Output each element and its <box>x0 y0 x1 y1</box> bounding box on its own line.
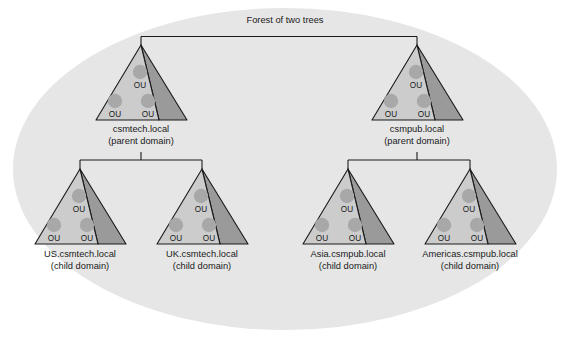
ou-circle[interactable] <box>80 218 94 232</box>
domain-name-label: US.csmtech.local <box>44 249 116 259</box>
ou-circle[interactable] <box>194 189 208 203</box>
ou-circle-label: OU <box>170 234 182 243</box>
domain-role-label: (parent domain) <box>108 136 174 146</box>
domain-role-label: (child domain) <box>319 261 377 271</box>
ou-circle-label: OU <box>142 110 154 119</box>
ou-circle[interactable] <box>348 218 362 232</box>
ou-circle-label: OU <box>81 234 93 243</box>
forest-title: Forest of two trees <box>247 15 324 25</box>
ou-circle[interactable] <box>133 65 147 79</box>
domain-name-label: UK.csmtech.local <box>166 249 238 259</box>
ou-circle-label: OU <box>134 81 146 90</box>
domain-role-label: (child domain) <box>173 261 231 271</box>
domain-role-label: (child domain) <box>51 261 109 271</box>
ou-circle-label: OU <box>463 205 475 214</box>
ou-circle-label: OU <box>203 234 215 243</box>
domain-name-label: Asia.csmpub.local <box>311 249 386 259</box>
domain-name-label: csmpub.local <box>390 124 444 134</box>
ou-circle-label: OU <box>349 234 361 243</box>
ou-circle[interactable] <box>417 94 431 108</box>
ou-circle[interactable] <box>141 94 155 108</box>
ou-circle[interactable] <box>108 94 122 108</box>
ou-circle[interactable] <box>72 189 86 203</box>
ou-circle[interactable] <box>169 218 183 232</box>
ou-circle-label: OU <box>385 110 397 119</box>
domain-role-label: (parent domain) <box>384 136 450 146</box>
ou-circle[interactable] <box>47 218 61 232</box>
ou-circle-label: OU <box>109 110 121 119</box>
ou-circle-label: OU <box>341 205 353 214</box>
ou-circle[interactable] <box>437 218 451 232</box>
ou-circle-label: OU <box>410 81 422 90</box>
ou-circle-label: OU <box>418 110 430 119</box>
domain-name-label: Americas.csmpub.local <box>422 249 518 259</box>
forest-diagram: Forest of two trees OU OU OU <box>0 0 569 354</box>
domain-role-label: (child domain) <box>441 261 499 271</box>
forest-boundary-ellipse <box>13 8 557 330</box>
ou-circle-label: OU <box>195 205 207 214</box>
ou-circle[interactable] <box>409 65 423 79</box>
ou-circle-label: OU <box>471 234 483 243</box>
ou-circle-label: OU <box>73 205 85 214</box>
ou-circle-label: OU <box>438 234 450 243</box>
ou-circle[interactable] <box>462 189 476 203</box>
ou-circle-label: OU <box>316 234 328 243</box>
diagram-canvas: Forest of two trees OU OU OU <box>0 0 569 354</box>
ou-circle[interactable] <box>384 94 398 108</box>
ou-circle[interactable] <box>202 218 216 232</box>
ou-circle-label: OU <box>48 234 60 243</box>
ou-circle[interactable] <box>340 189 354 203</box>
domain-name-label: csmtech.local <box>113 124 169 134</box>
ou-circle[interactable] <box>470 218 484 232</box>
ou-circle[interactable] <box>315 218 329 232</box>
